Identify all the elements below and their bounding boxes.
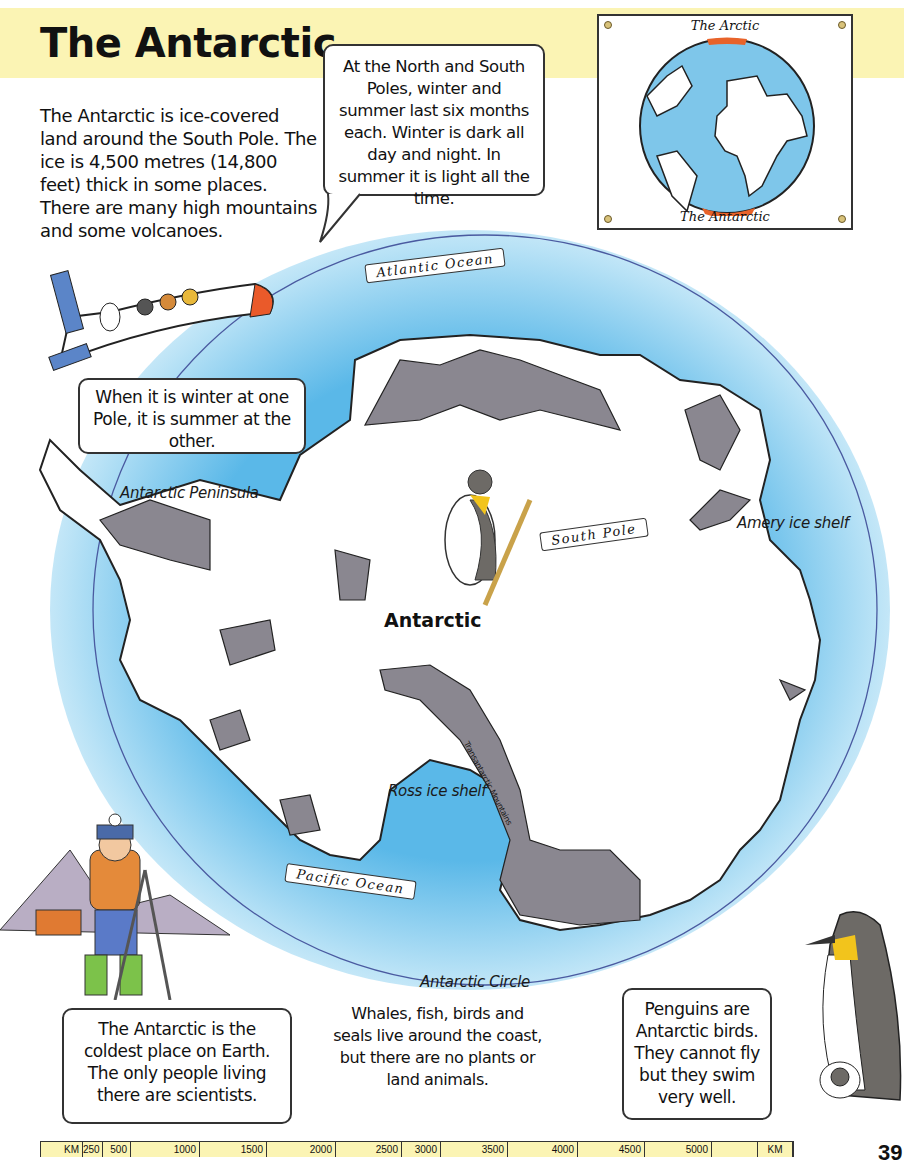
scale-tick: 500 xyxy=(103,1142,131,1157)
ross-ice-shelf-label: Ross ice shelf xyxy=(388,782,486,800)
globe-icon xyxy=(637,36,817,216)
poles-bubble-text: At the North and South Poles, winter and… xyxy=(338,57,529,208)
scale-tick xyxy=(712,1142,758,1157)
page-number: 39 xyxy=(878,1140,902,1164)
wildlife-caption: Whales, fish, birds and seals live aroun… xyxy=(330,1003,545,1091)
scale-unit-right: KM xyxy=(758,1142,793,1157)
scale-tick: 5000 xyxy=(645,1142,712,1157)
globe-antarctic-label: The Antarctic xyxy=(599,209,851,224)
globe-inset: The Arctic The Antarctic xyxy=(597,14,853,230)
airplane-icon xyxy=(40,262,280,392)
poles-speech-bubble: At the North and South Poles, winter and… xyxy=(323,44,545,196)
scale-tick: 3500 xyxy=(441,1142,508,1157)
scale-tick: 2500 xyxy=(336,1142,402,1157)
scientist-icon xyxy=(0,810,240,1000)
scale-tick: 3000 xyxy=(402,1142,441,1157)
scale-bar: KM 250 500 1000 1500 2000 2500 3000 3500… xyxy=(40,1141,794,1157)
penguins-bubble-text: Penguins are Antarctic birds. They canno… xyxy=(634,999,760,1107)
amery-ice-shelf-label: Amery ice shelf xyxy=(737,514,849,532)
scale-tick: 1500 xyxy=(200,1142,267,1157)
antarctic-peninsula-label: Antarctic Peninsula xyxy=(120,484,259,502)
scale-tick: 4500 xyxy=(578,1142,645,1157)
coldest-speech-bubble: The Antarctic is the coldest place on Ea… xyxy=(62,1008,292,1124)
coldest-bubble-text: The Antarctic is the coldest place on Ea… xyxy=(84,1019,270,1105)
continent-label: Antarctic xyxy=(384,609,482,631)
emperor-penguin-icon xyxy=(800,905,904,1110)
penguins-speech-bubble: Penguins are Antarctic birds. They canno… xyxy=(622,988,772,1120)
seasons-bubble-text: When it is winter at one Pole, it is sum… xyxy=(93,387,291,451)
intro-text: The Antarctic is ice-covered land around… xyxy=(40,104,320,242)
scale-tick: 1000 xyxy=(131,1142,200,1157)
seasons-speech-bubble: When it is winter at one Pole, it is sum… xyxy=(78,378,306,454)
page-title: The Antarctic xyxy=(40,20,336,66)
globe-arctic-label: The Arctic xyxy=(599,18,851,33)
scale-tick: 2000 xyxy=(267,1142,336,1157)
antarctic-circle-label: Antarctic Circle xyxy=(420,973,530,991)
scale-tick: 250 xyxy=(83,1142,103,1157)
scale-unit-left: KM xyxy=(41,1142,83,1157)
scale-tick: 4000 xyxy=(508,1142,578,1157)
